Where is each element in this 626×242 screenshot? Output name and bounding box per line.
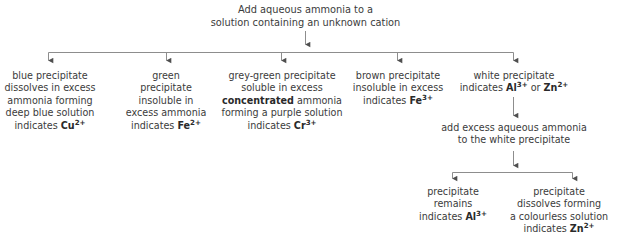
- chemical-formula: Cr3+: [294, 120, 317, 131]
- node-line-3: indicates Fe3+: [350, 95, 446, 107]
- node-line-1: grey-green precipitate: [214, 70, 350, 82]
- node-line-2: remains: [398, 198, 508, 210]
- node-branch-iron-three: brown precipitateinsoluble in excessindi…: [350, 70, 446, 107]
- node-line-2: dissolves forming: [496, 198, 622, 210]
- node-sub-branch-aluminium: precipitateremainsindicates Al3+: [398, 186, 508, 223]
- node-sub-branch-zinc: precipitatedissolves forminga colourless…: [496, 186, 622, 236]
- charge-superscript: 2+: [557, 80, 568, 89]
- sub-step-line-1: add excess aqueous ammonia: [438, 122, 590, 134]
- node-line-3: insoluble in: [116, 95, 216, 107]
- node-line-4: excess ammonia: [116, 107, 216, 119]
- charge-superscript: 3+: [422, 93, 433, 102]
- charge-superscript: 3+: [306, 117, 317, 126]
- node-branch-chromium: grey-green precipitatesoluble in excessc…: [214, 70, 350, 132]
- chemical-formula: Fe3+: [409, 95, 433, 106]
- chemical-formula: Zn2+: [570, 223, 595, 234]
- node-line-4: forming a purple solution: [214, 107, 350, 119]
- node-line-5: indicates Cu2+: [0, 120, 100, 132]
- node-line-4: indicates Zn2+: [496, 223, 622, 235]
- charge-superscript: 3+: [517, 80, 528, 89]
- cation-test-flowchart: Add aqueous ammonia to a solution contai…: [0, 0, 626, 242]
- node-sub-step-add-excess-ammonia: add excess aqueous ammonia to the white …: [438, 122, 590, 147]
- title-line-2: solution containing an unknown cation: [203, 16, 408, 29]
- node-line-1: green: [116, 70, 216, 82]
- chemical-formula: Zn2+: [544, 82, 569, 93]
- node-line-3: ammonia forming: [0, 95, 100, 107]
- chemical-formula: Fe2+: [177, 120, 201, 131]
- node-branch-iron-two: greenprecipitateinsoluble inexcess ammon…: [116, 70, 216, 132]
- chemical-formula: Al3+: [506, 82, 528, 93]
- node-line-2: precipitate: [116, 82, 216, 94]
- charge-superscript: 2+: [75, 117, 86, 126]
- sub-step-line-2: to the white precipitate: [438, 134, 590, 146]
- node-line-5: indicates Fe2+: [116, 120, 216, 132]
- node-title: Add aqueous ammonia to a solution contai…: [203, 3, 408, 29]
- charge-superscript: 3+: [476, 209, 487, 218]
- node-line-3: concentrated ammonia: [214, 95, 350, 107]
- node-line-1: blue precipitate: [0, 70, 100, 82]
- emphasis-text: concentrated: [222, 95, 294, 106]
- chemical-formula: Cu2+: [61, 120, 86, 131]
- title-line-1: Add aqueous ammonia to a: [203, 3, 408, 16]
- node-line-2: soluble in excess: [214, 82, 350, 94]
- node-line-1: precipitate: [496, 186, 622, 198]
- node-line-2: dissolves in excess: [0, 82, 100, 94]
- node-line-1: precipitate: [398, 186, 508, 198]
- chemical-formula: Al3+: [465, 211, 487, 222]
- node-line-3: indicates Al3+: [398, 211, 508, 223]
- charge-superscript: 2+: [584, 221, 595, 230]
- node-line-3: a colourless solution: [496, 211, 622, 223]
- node-line-5: indicates Cr3+: [214, 120, 350, 132]
- node-branch-aluminium-or-zinc: white precipitateindicates Al3+ or Zn2+: [452, 70, 576, 95]
- node-line-1: brown precipitate: [350, 70, 446, 82]
- node-branch-copper: blue precipitatedissolves in excessammon…: [0, 70, 100, 132]
- node-line-2: indicates Al3+ or Zn2+: [452, 82, 576, 94]
- charge-superscript: 2+: [190, 117, 201, 126]
